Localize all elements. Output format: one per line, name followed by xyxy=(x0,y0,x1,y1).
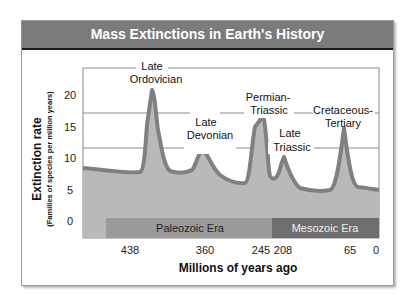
x-axis-title: Millions of years ago xyxy=(179,261,298,275)
label-kt-1: Cretaceous- xyxy=(313,104,373,116)
ytick-0: 0 xyxy=(67,215,73,227)
label-permian-1: Permian- xyxy=(246,91,291,103)
label-ordovician-2: Ordovician xyxy=(130,73,183,85)
xtick-208: 208 xyxy=(274,244,292,256)
label-devonian-2: Devonian xyxy=(187,129,233,141)
xtick-0: 0 xyxy=(373,244,379,256)
ytick-20: 20 xyxy=(64,89,76,101)
y-axis-subtitle: (Families of species per million years) xyxy=(45,91,54,227)
mesozoic-label: Mesozoic Era xyxy=(292,222,360,234)
xtick-65: 65 xyxy=(344,244,356,256)
label-permian-2: Triassic xyxy=(250,104,288,116)
y-axis-title: Extinction rate xyxy=(30,117,44,201)
label-triassic-2: Triassic xyxy=(273,141,311,153)
paleozoic-label: Paleozoic Era xyxy=(156,222,225,234)
ytick-5: 5 xyxy=(67,184,73,196)
ytick-15: 15 xyxy=(64,121,76,133)
xtick-245: 245 xyxy=(252,244,270,256)
label-devonian-1: Late xyxy=(195,116,216,128)
chart-svg: Paleozoic Era Mesozoic Era Late Ordovici… xyxy=(0,0,420,306)
label-triassic-1: Late xyxy=(279,127,300,139)
xtick-438: 438 xyxy=(121,244,139,256)
label-ordovician-1: Late xyxy=(141,60,162,72)
label-kt-2: Tertiary xyxy=(325,117,362,129)
xtick-360: 360 xyxy=(196,244,214,256)
ytick-10: 10 xyxy=(64,152,76,164)
